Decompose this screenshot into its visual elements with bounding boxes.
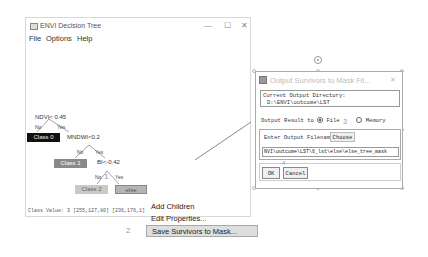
edge-label-no: No: [95, 174, 101, 180]
tree-node-ndvi[interactable]: NDVI< 0.45: [35, 114, 66, 120]
context-menu: Add Children Edit Properties... Save Sur…: [146, 201, 258, 237]
dialog-icon: [259, 76, 267, 84]
menu-item-save-survivors[interactable]: Save Survivors to Mask...: [146, 225, 258, 237]
step-number: 1: [104, 172, 108, 181]
edge-label-yes: Yes: [95, 149, 103, 155]
edge-label-yes: Yes: [57, 124, 65, 130]
rotate-handle[interactable]: [314, 56, 322, 64]
output-survivors-dialog: Output Survivors to Mask Fil... ✕ Curren…: [255, 71, 403, 189]
output-filename-group: Enter Output Filename Choose NVI\outcome…: [259, 129, 401, 160]
title-bar[interactable]: ENVI Decision Tree — ☐ ✕: [26, 18, 250, 34]
menu-options[interactable]: Options: [46, 34, 72, 43]
current-directory-label: Current Output Directory:: [263, 92, 397, 99]
cancel-button[interactable]: Cancel: [283, 167, 308, 179]
radio-memory-label[interactable]: Memory: [366, 117, 386, 124]
output-result-label: Output Result to: [261, 117, 314, 124]
dialog-title-bar[interactable]: Output Survivors to Mask Fil... ✕: [256, 72, 402, 88]
radio-file-label[interactable]: File: [326, 117, 339, 124]
tree-node-mndwi[interactable]: MNDWI<0.2: [67, 134, 100, 140]
menu-item-add-children[interactable]: Add Children: [146, 201, 258, 213]
app-icon: [30, 23, 38, 30]
edge-label-yes: Yes: [115, 174, 123, 180]
step-number: 3: [343, 118, 347, 126]
tree-node-class1[interactable]: Class 1: [54, 159, 87, 168]
filename-label: Enter Output Filename: [264, 134, 333, 141]
dialog-title: Output Survivors to Mask Fil...: [270, 76, 370, 85]
tree-canvas[interactable]: NDVI< 0.45 No Yes Class 0 MNDWI<0.2 No Y…: [27, 48, 249, 204]
filename-input[interactable]: NVI\outcome\LST\6_lst\else\else_tree_mas…: [262, 147, 399, 157]
tree-node-bi[interactable]: BI<-0.42: [97, 159, 120, 165]
tree-node-class2[interactable]: Class 2: [75, 185, 108, 194]
maximize-button[interactable]: ☐: [224, 21, 231, 30]
menu-help[interactable]: Help: [77, 34, 92, 43]
current-directory-value: D:\ENVI\outcome\LST: [263, 99, 397, 106]
edge-label-no: No: [77, 149, 83, 155]
output-result-row: Output Result to File 3 Memory: [261, 116, 386, 124]
minimize-button[interactable]: —: [204, 21, 212, 30]
envi-decision-tree-window: ENVI Decision Tree — ☐ ✕ File Options He…: [25, 17, 251, 217]
menu-file[interactable]: File: [29, 34, 41, 43]
radio-file[interactable]: [317, 117, 323, 123]
edge-label-no: No: [35, 124, 41, 130]
tree-node-class0[interactable]: Class 0: [27, 133, 60, 142]
dialog-close-button[interactable]: ✕: [390, 76, 396, 84]
current-directory-box: Current Output Directory: D:\ENVI\outcom…: [260, 90, 400, 107]
step-number: 2: [126, 226, 130, 235]
button-row: OK Cancel 4: [259, 163, 401, 181]
step-number: 4: [282, 160, 285, 166]
close-button[interactable]: ✕: [241, 21, 248, 30]
window-title: ENVI Decision Tree: [40, 22, 101, 29]
tree-node-else[interactable]: else: [115, 185, 147, 194]
radio-memory[interactable]: [356, 117, 362, 123]
menu-item-edit-properties[interactable]: Edit Properties...: [146, 213, 258, 225]
choose-button[interactable]: Choose: [330, 132, 355, 142]
ok-button[interactable]: OK: [262, 167, 280, 179]
